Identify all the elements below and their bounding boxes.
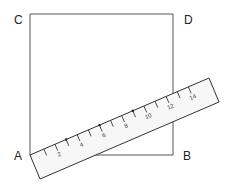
vertex-label-b: B <box>183 149 191 163</box>
ruler-dot-9 <box>132 110 134 112</box>
ruler-dot-3 <box>65 138 67 140</box>
vertex-label-c: C <box>14 13 23 27</box>
vertex-label-d: D <box>184 13 193 27</box>
ruler-dot-6 <box>98 124 100 126</box>
ruler: 2468101214 <box>30 78 219 179</box>
square-ruler-diagram: 2468101214 C D B A <box>0 0 228 188</box>
vertex-label-a: A <box>14 149 22 163</box>
